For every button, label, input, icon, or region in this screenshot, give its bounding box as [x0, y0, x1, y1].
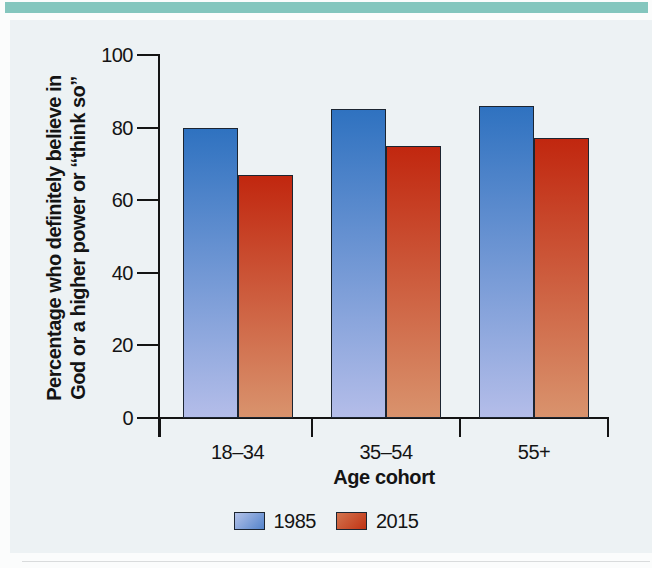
y-tick-label-40: 40 [81, 262, 133, 284]
x-tick-mark-3 [607, 418, 609, 437]
page-bottom-rule [22, 561, 650, 562]
textbook-figure-page: Percentage who definitely believe in God… [0, 0, 652, 568]
bar-1985-55+ [479, 106, 534, 418]
bar-1985-35-54 [331, 109, 386, 418]
page-top-band [5, 2, 648, 13]
x-category-label-55+: 55+ [464, 440, 604, 464]
x-category-label-18-34: 18–34 [168, 440, 308, 464]
legend-label-2015: 2015 [376, 510, 419, 532]
y-tick-mark-80 [137, 127, 159, 129]
y-tick-mark-40 [137, 272, 159, 274]
chart-legend: 19852015 [0, 510, 652, 532]
x-tick-mark-1 [311, 418, 313, 437]
x-category-label-35-54: 35–54 [316, 440, 456, 464]
y-tick-label-100: 100 [81, 44, 133, 66]
bar-2015-35-54 [386, 146, 441, 418]
y-tick-label-60: 60 [81, 189, 133, 211]
y-tick-mark-100 [137, 54, 159, 56]
legend-swatch-1985 [234, 512, 265, 530]
y-tick-label-80: 80 [81, 117, 133, 139]
x-axis-title: Age cohort [264, 466, 504, 489]
y-tick-label-20: 20 [81, 334, 133, 356]
y-axis-title-line1: Percentage who definitely believe in [42, 75, 66, 400]
y-tick-mark-20 [137, 344, 159, 346]
y-tick-mark-0 [137, 417, 159, 419]
legend-label-1985: 1985 [274, 510, 317, 532]
legend-item-2015: 2015 [336, 510, 419, 532]
legend-swatch-2015 [336, 512, 367, 530]
legend-item-1985: 1985 [234, 510, 317, 532]
y-axis-line [158, 54, 160, 437]
bar-2015-18-34 [238, 175, 293, 418]
bar-2015-55+ [534, 138, 589, 418]
x-tick-mark-2 [459, 418, 461, 437]
y-tick-mark-60 [137, 199, 159, 201]
x-tick-mark-0 [159, 418, 161, 437]
bar-1985-18-34 [183, 128, 238, 418]
y-tick-label-0: 0 [81, 407, 133, 429]
